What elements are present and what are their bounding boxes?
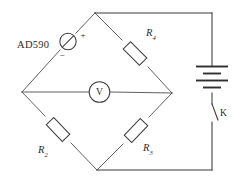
resistor-r3-body (124, 119, 147, 143)
ad590-label: AD590 (17, 39, 49, 50)
switch-k-label: K (220, 108, 227, 118)
resistor-r4 (123, 42, 147, 66)
ad590-plus-sign: + (80, 30, 85, 40)
battery (196, 67, 228, 88)
ad590-sensor (60, 33, 76, 49)
resistor-r4-subscript: 4 (153, 34, 157, 41)
switch-k-blade (212, 104, 218, 120)
resistor-r2 (46, 118, 69, 142)
switch-k (212, 104, 218, 120)
resistor-r2-body (46, 118, 69, 142)
resistor-r3-subscript: 3 (149, 149, 154, 156)
ad590-minus-sign: − (59, 50, 64, 60)
resistor-r2-subscript: 2 (45, 151, 49, 158)
voltmeter-label: V (96, 87, 103, 97)
resistor-r3 (124, 119, 147, 143)
resistor-r4-body (123, 42, 147, 66)
circuit-diagram: V AD590 + − R 4 R 2 R 3 (0, 0, 235, 185)
circuit-svg: V AD590 + − R 4 R 2 R 3 (0, 0, 235, 185)
